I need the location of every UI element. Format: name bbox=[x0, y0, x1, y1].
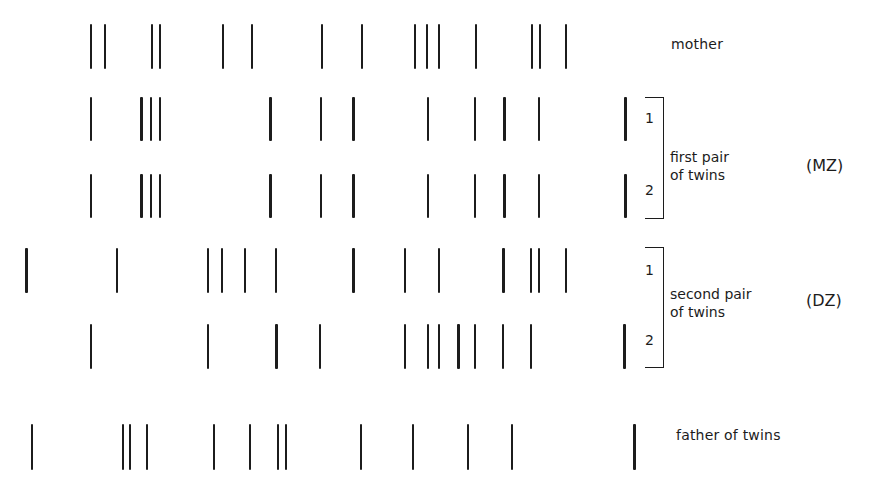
dna-band bbox=[90, 174, 92, 218]
band-row-dz-twin-2 bbox=[0, 324, 660, 369]
dna-band bbox=[624, 174, 627, 218]
father-label: father of twins bbox=[676, 427, 781, 443]
dna-band bbox=[438, 248, 440, 293]
dna-band bbox=[275, 248, 277, 293]
dna-band bbox=[129, 424, 131, 470]
dna-band bbox=[538, 174, 540, 218]
dz-pair-line-1: second pair bbox=[670, 285, 752, 303]
dna-band bbox=[502, 324, 504, 369]
dna-band bbox=[277, 424, 279, 470]
dna-band bbox=[539, 24, 541, 69]
dna-band bbox=[90, 24, 92, 69]
dna-band bbox=[321, 24, 323, 69]
dna-band bbox=[251, 24, 253, 69]
dna-band bbox=[159, 174, 161, 218]
dna-band bbox=[244, 248, 246, 293]
dz-group-label: (DZ) bbox=[806, 291, 842, 310]
dna-band bbox=[412, 424, 414, 470]
dna-band bbox=[502, 248, 505, 293]
dna-band bbox=[531, 24, 533, 69]
dna-band bbox=[320, 97, 322, 141]
band-row-mother bbox=[0, 24, 660, 69]
dna-band bbox=[503, 174, 506, 218]
dna-band bbox=[150, 174, 152, 218]
dna-band bbox=[146, 424, 148, 470]
dna-band bbox=[352, 97, 355, 141]
dna-band bbox=[275, 324, 278, 369]
dz-twin-2-number: 2 bbox=[645, 332, 654, 348]
band-row-dz-twin-1 bbox=[0, 248, 660, 293]
dz-pair-line-2: of twins bbox=[670, 303, 752, 321]
dna-band bbox=[159, 97, 161, 141]
dna-band bbox=[457, 324, 460, 369]
dna-band bbox=[140, 97, 143, 141]
mz-pair-line-2: of twins bbox=[670, 166, 729, 184]
dna-band bbox=[538, 97, 540, 141]
mz-twin-2-number: 2 bbox=[645, 182, 654, 198]
dna-band bbox=[207, 248, 209, 293]
dna-band bbox=[503, 97, 506, 141]
dna-band bbox=[269, 174, 272, 218]
mz-twin-1-number: 1 bbox=[645, 110, 654, 126]
dna-band bbox=[159, 24, 161, 69]
dna-band bbox=[104, 24, 106, 69]
dna-band bbox=[116, 248, 118, 293]
dna-band bbox=[320, 174, 322, 218]
dz-twin-1-number: 1 bbox=[645, 262, 654, 278]
dna-band bbox=[90, 324, 92, 369]
dna-band bbox=[538, 248, 540, 293]
dna-band bbox=[427, 97, 429, 141]
dna-band bbox=[352, 248, 355, 293]
band-row-mz-twin-2 bbox=[0, 174, 660, 218]
dna-band bbox=[25, 248, 28, 293]
dna-band bbox=[140, 174, 143, 218]
dna-band bbox=[565, 24, 567, 69]
dna-band bbox=[427, 174, 429, 218]
dna-band bbox=[427, 324, 429, 369]
dna-band bbox=[530, 248, 532, 293]
dna-band bbox=[151, 24, 153, 69]
dna-band bbox=[474, 97, 476, 141]
dna-fingerprint-diagram: mother 1 2 first pair of twins (MZ) 1 2 … bbox=[0, 0, 869, 491]
dna-band bbox=[213, 424, 215, 470]
dna-band bbox=[404, 324, 406, 369]
dna-band bbox=[438, 24, 440, 69]
dna-band bbox=[530, 324, 532, 369]
dna-band bbox=[426, 24, 428, 69]
dna-band bbox=[150, 97, 152, 141]
dna-band bbox=[122, 424, 124, 470]
dna-band bbox=[474, 174, 476, 218]
dna-band bbox=[360, 424, 362, 470]
band-row-mz-twin-1 bbox=[0, 97, 660, 141]
dna-band bbox=[361, 24, 363, 69]
dna-band bbox=[414, 24, 416, 69]
dna-band bbox=[467, 424, 469, 470]
dna-band bbox=[633, 424, 636, 470]
dna-band bbox=[511, 424, 513, 470]
dna-band bbox=[31, 424, 33, 470]
dna-band bbox=[222, 24, 224, 69]
dna-band bbox=[623, 324, 626, 369]
dna-band bbox=[565, 248, 567, 293]
mz-group-label: (MZ) bbox=[806, 156, 843, 175]
dna-band bbox=[269, 97, 272, 141]
mother-label: mother bbox=[671, 36, 723, 52]
dna-band bbox=[249, 424, 251, 470]
dna-band bbox=[624, 97, 627, 141]
dna-band bbox=[438, 324, 440, 369]
dna-band bbox=[319, 324, 321, 369]
dna-band bbox=[207, 324, 209, 369]
dna-band bbox=[475, 24, 477, 69]
dna-band bbox=[352, 174, 355, 218]
dz-pair-label: second pair of twins bbox=[670, 285, 752, 321]
dna-band bbox=[285, 424, 287, 470]
dna-band bbox=[474, 324, 476, 369]
band-row-father bbox=[0, 424, 660, 470]
dna-band bbox=[221, 248, 223, 293]
mz-pair-line-1: first pair bbox=[670, 148, 729, 166]
dna-band bbox=[90, 97, 92, 141]
mz-pair-label: first pair of twins bbox=[670, 148, 729, 184]
dna-band bbox=[404, 248, 406, 293]
